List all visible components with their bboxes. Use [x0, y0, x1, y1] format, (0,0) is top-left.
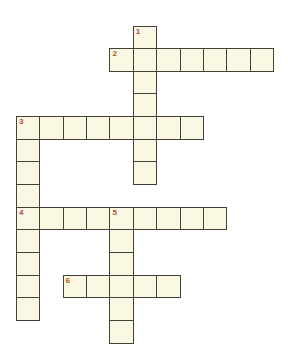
- crossword-cell[interactable]: [16, 229, 40, 253]
- crossword-cell[interactable]: [86, 275, 110, 299]
- crossword-cell[interactable]: 2: [109, 48, 133, 72]
- crossword-cell[interactable]: [109, 252, 133, 276]
- crossword-cell[interactable]: [86, 207, 110, 231]
- crossword-cell[interactable]: [133, 116, 157, 140]
- crossword-cell[interactable]: 6: [63, 275, 87, 299]
- crossword-cell[interactable]: [109, 297, 133, 321]
- crossword-cell[interactable]: [133, 161, 157, 185]
- clue-number: 2: [112, 49, 116, 59]
- crossword-cell[interactable]: [250, 48, 274, 72]
- crossword-cell[interactable]: [133, 139, 157, 163]
- crossword-cell[interactable]: [109, 275, 133, 299]
- clue-number: 5: [112, 208, 116, 218]
- crossword-cell[interactable]: [156, 275, 180, 299]
- crossword-grid: 123456: [0, 0, 288, 358]
- crossword-cell[interactable]: [133, 48, 157, 72]
- clue-number: 6: [66, 276, 70, 286]
- crossword-cell[interactable]: [63, 116, 87, 140]
- crossword-cell[interactable]: 3: [16, 116, 40, 140]
- crossword-puzzle-page: 123456: [0, 0, 288, 358]
- clue-number: 3: [19, 117, 23, 127]
- crossword-cell[interactable]: [16, 184, 40, 208]
- crossword-cell[interactable]: [63, 207, 87, 231]
- crossword-cell[interactable]: [133, 71, 157, 95]
- crossword-cell[interactable]: 5: [109, 207, 133, 231]
- crossword-cell[interactable]: [16, 275, 40, 299]
- crossword-cell[interactable]: [156, 116, 180, 140]
- crossword-cell[interactable]: [16, 297, 40, 321]
- crossword-cell[interactable]: [16, 252, 40, 276]
- crossword-cell[interactable]: 1: [133, 26, 157, 50]
- crossword-cell[interactable]: [109, 229, 133, 253]
- clue-number: 1: [136, 27, 140, 37]
- crossword-cell[interactable]: [39, 207, 63, 231]
- crossword-cell[interactable]: 4: [16, 207, 40, 231]
- crossword-cell[interactable]: [109, 320, 133, 344]
- crossword-cell[interactable]: [109, 116, 133, 140]
- crossword-cell[interactable]: [180, 116, 204, 140]
- clue-number: 4: [19, 208, 23, 218]
- crossword-cell[interactable]: [86, 116, 110, 140]
- crossword-cell[interactable]: [203, 48, 227, 72]
- crossword-cell[interactable]: [226, 48, 250, 72]
- crossword-cell[interactable]: [156, 207, 180, 231]
- crossword-cell[interactable]: [39, 116, 63, 140]
- crossword-cell[interactable]: [156, 48, 180, 72]
- crossword-cell[interactable]: [180, 207, 204, 231]
- crossword-cell[interactable]: [203, 207, 227, 231]
- crossword-cell[interactable]: [16, 161, 40, 185]
- crossword-cell[interactable]: [180, 48, 204, 72]
- crossword-cell[interactable]: [133, 275, 157, 299]
- crossword-cell[interactable]: [133, 93, 157, 117]
- crossword-cell[interactable]: [133, 207, 157, 231]
- crossword-cell[interactable]: [16, 139, 40, 163]
